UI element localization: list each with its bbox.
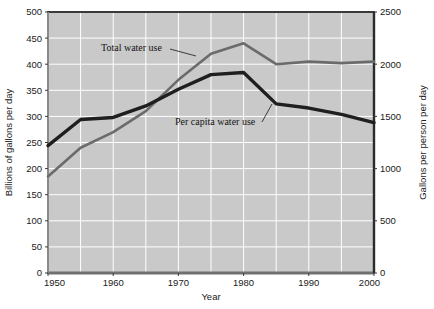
y-tick-label-right: 2500: [380, 6, 401, 17]
y-tick-label-right: 0: [380, 267, 385, 278]
y-axis-title-right: Gallons per person per day: [417, 85, 428, 200]
y-tick-label-right: 1500: [380, 111, 401, 122]
annotation-label: Per capita water use: [175, 116, 256, 127]
x-tick-label: 1960: [103, 277, 124, 288]
chart-figure: 0501001502002503003504004505000500100015…: [0, 0, 434, 309]
y-tick-label-left: 500: [26, 6, 42, 17]
y-tick-label-left: 100: [26, 215, 42, 226]
x-tick-label: 2000: [359, 277, 380, 288]
annotation-label: Total water use: [101, 42, 163, 53]
y-tick-label-left: 250: [26, 137, 42, 148]
y-tick-label-right: 2000: [380, 59, 401, 70]
x-tick-label: 1970: [168, 277, 189, 288]
y-tick-label-right: 1000: [380, 163, 401, 174]
y-tick-label-left: 450: [26, 33, 42, 44]
x-axis-title: Year: [201, 291, 220, 302]
y-axis-title-left: Billions of gallons per day: [3, 88, 14, 196]
y-tick-label-left: 200: [26, 163, 42, 174]
water-use-line-chart: 0501001502002503003504004505000500100015…: [0, 0, 434, 309]
y-tick-label-right: 500: [380, 215, 396, 226]
y-tick-label-left: 400: [26, 59, 42, 70]
x-tick-label: 1980: [233, 277, 254, 288]
x-tick-label: 1990: [298, 277, 319, 288]
y-tick-label-left: 0: [37, 267, 42, 278]
y-tick-label-left: 50: [31, 241, 42, 252]
y-tick-label-left: 350: [26, 85, 42, 96]
y-tick-label-left: 300: [26, 111, 42, 122]
x-tick-label: 1950: [44, 277, 65, 288]
y-tick-label-left: 150: [26, 189, 42, 200]
